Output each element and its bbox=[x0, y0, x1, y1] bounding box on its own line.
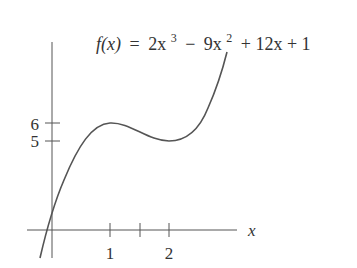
function-curve bbox=[40, 52, 227, 258]
x-axis-label: x bbox=[247, 221, 256, 240]
function-title: f(x) = 2x 3 − 9x 2 + 12x + 1 bbox=[96, 26, 311, 55]
y-tick-label-5: 5 bbox=[31, 132, 40, 151]
title-eq: = bbox=[129, 34, 139, 54]
title-exp1: 3 bbox=[171, 31, 177, 45]
title-term3: + 12x + 1 bbox=[241, 34, 311, 54]
title-term2: 9x bbox=[204, 34, 222, 54]
x-tick-label-2: 2 bbox=[165, 244, 174, 263]
plot: 1 2 6 5 x f(x) = 2x 3 − 9x 2 + 12x + 1 bbox=[0, 0, 357, 268]
title-minus: − bbox=[185, 34, 195, 54]
title-exp2: 2 bbox=[226, 31, 232, 45]
x-tick-label-1: 1 bbox=[106, 244, 115, 263]
title-fx: f(x) bbox=[96, 34, 121, 55]
title-term1: 2x bbox=[148, 34, 166, 54]
